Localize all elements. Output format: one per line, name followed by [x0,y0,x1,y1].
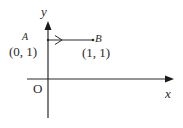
point-a-label: A [21,31,29,42]
diagram-stage: y x O A (0, 1) B (1, 1) [0,0,183,128]
point-b-coords: (1, 1) [82,45,110,60]
point-b-marker [92,39,95,42]
point-b-label: B [95,32,102,44]
x-axis-label: x [164,86,171,101]
y-axis-label: y [39,4,47,19]
point-a-coords: (0, 1) [9,44,37,59]
origin-label: O [33,81,42,96]
coordinate-plane: y x O A (0, 1) B (1, 1) [0,0,183,128]
x-axis-arrowhead-icon [165,76,174,83]
y-axis-arrowhead-icon [45,21,52,30]
point-a-marker [47,39,49,41]
